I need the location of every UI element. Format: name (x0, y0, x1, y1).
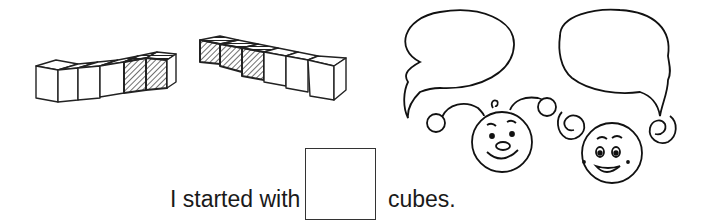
girl-character (558, 112, 676, 183)
left-cube-train (36, 52, 176, 102)
boy-character (427, 98, 556, 173)
right-cube-train (200, 36, 346, 100)
answer-box[interactable] (305, 148, 376, 220)
speech-bubble-right (559, 10, 670, 116)
cube-hatched-2 (146, 52, 176, 90)
prompt-text-start: I started with (170, 186, 300, 213)
prompt-text-end: cubes. (388, 186, 456, 213)
cube-white-7 (308, 56, 346, 100)
